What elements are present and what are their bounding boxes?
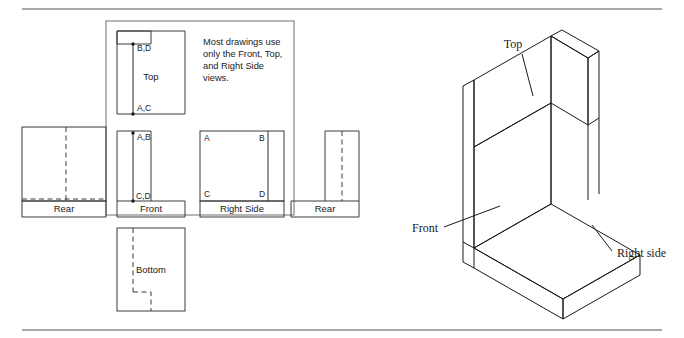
rear-right-label: Rear (315, 203, 336, 214)
top-corner-label-lower: A,C (137, 103, 151, 113)
views-note: Most drawings use only the Front, Top, a… (203, 37, 282, 83)
iso-rib-cap-face (551, 30, 599, 58)
note-line-2: only the Front, Top, (203, 49, 282, 59)
front-corner-label-lower: C,D (136, 191, 151, 201)
right-side-view-label: Right Side (220, 203, 264, 214)
drawing-canvas: Rear B,D A,C Top Most drawings use only … (0, 0, 684, 338)
iso-base-right-face (563, 255, 640, 319)
front-vertex-upper-dot (131, 131, 134, 134)
iso-front-label: Front (412, 221, 439, 235)
view-front: A,B C,D Front (117, 131, 185, 217)
front-view-label: Front (140, 203, 163, 214)
top-vertex-upper-dot (131, 42, 134, 45)
view-right-side: A B C D Right Side (200, 131, 284, 217)
front-corner-label-upper: A,B (137, 132, 151, 142)
right-side-corner-label-b: B (259, 133, 265, 143)
bottom-view-label: Bottom (136, 264, 166, 275)
iso-upright-top-face (474, 36, 551, 147)
right-side-outline (200, 131, 284, 201)
front-vertex-lower-dot (131, 199, 134, 202)
iso-base-front-face (474, 248, 563, 319)
view-top: B,D A,C Top (117, 31, 185, 116)
iso-top-label: Top (504, 37, 523, 51)
iso-rib-side-face (588, 51, 599, 125)
view-rear-left: Rear (22, 127, 106, 217)
view-rear-right: Rear (291, 131, 359, 217)
isometric-view: Top Front Right side (412, 30, 666, 319)
bottom-hidden-notch (133, 292, 151, 311)
iso-front-leader-line (444, 206, 500, 227)
technical-drawing-figure: Rear B,D A,C Top Most drawings use only … (0, 0, 684, 338)
right-side-corner-label-c: C (204, 189, 210, 199)
rear-left-outline (22, 127, 106, 201)
note-line-4: views. (203, 73, 229, 83)
right-side-corner-label-a: A (204, 133, 210, 143)
rear-left-label: Rear (54, 203, 75, 214)
iso-upright-left-edge (463, 80, 474, 248)
iso-top-leader-line (522, 54, 533, 96)
top-vertex-lower-dot (131, 112, 134, 115)
note-line-3: and Right Side (203, 61, 264, 71)
iso-right-side-label: Right side (617, 246, 666, 260)
right-side-corner-label-d: D (259, 189, 265, 199)
view-bottom: Bottom (117, 228, 185, 311)
top-corner-label-upper: B,D (137, 43, 151, 53)
note-line-1: Most drawings use (203, 37, 281, 47)
iso-rib-top-face (551, 36, 588, 125)
iso-base-top-face (474, 204, 640, 299)
top-view-label: Top (143, 71, 158, 82)
iso-right-leader-line (592, 225, 612, 251)
iso-base-left-corner-edge (463, 262, 474, 268)
